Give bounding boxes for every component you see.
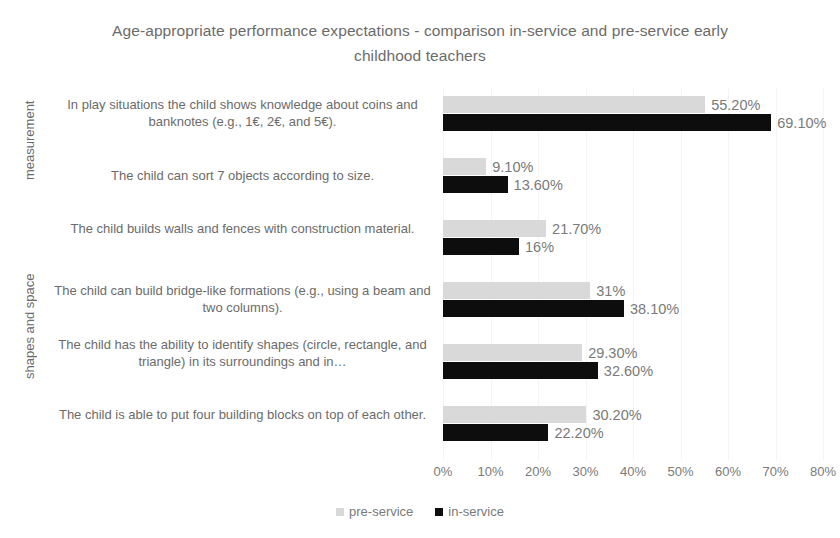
x-tick-label: 0% <box>434 464 453 479</box>
x-tick-label: 10% <box>477 464 503 479</box>
category-label: The child can build bridge-like formatio… <box>50 282 435 316</box>
bar-in-service[interactable]: 69.10% <box>443 114 771 131</box>
bar-chart: Age-appropriate performance expectations… <box>0 0 840 538</box>
bar-in-service[interactable]: 32.60% <box>443 362 598 379</box>
bar-value-label: 22.20% <box>554 425 603 441</box>
bar-value-label: 16% <box>525 239 554 255</box>
bar-group: 9.10%13.60% <box>443 158 823 196</box>
bar-pre-service[interactable]: 31% <box>443 282 590 299</box>
bar-pre-service[interactable]: 29.30% <box>443 344 582 361</box>
legend-label: in-service <box>448 504 504 519</box>
gridline <box>443 88 444 460</box>
x-tick-label: 80% <box>810 464 836 479</box>
bar-group: 30.20%22.20% <box>443 406 823 444</box>
bar-value-label: 69.10% <box>777 115 826 131</box>
legend-label: pre-service <box>349 504 413 519</box>
bar-value-label: 13.60% <box>514 177 563 193</box>
bar-pre-service[interactable]: 9.10% <box>443 158 486 175</box>
bar-value-label: 38.10% <box>630 301 679 317</box>
gridline <box>823 88 824 460</box>
x-tick-label: 40% <box>620 464 646 479</box>
bar-value-label: 32.60% <box>604 363 653 379</box>
category-label: The child has the ability to identify sh… <box>50 336 435 370</box>
chart-legend: pre-servicein-service <box>0 504 840 519</box>
gridline <box>681 88 682 460</box>
bar-value-label: 31% <box>596 283 625 299</box>
gridline <box>633 88 634 460</box>
category-label: The child builds walls and fences with c… <box>50 220 435 237</box>
x-tick-label: 50% <box>667 464 693 479</box>
legend-item-in-service[interactable]: in-service <box>435 504 504 519</box>
bar-in-service[interactable]: 13.60% <box>443 176 508 193</box>
chart-title: Age-appropriate performance expectations… <box>90 18 750 68</box>
category-label: The child can sort 7 objects according t… <box>50 167 435 184</box>
gridline <box>538 88 539 460</box>
x-axis-tick-labels: 0%10%20%30%40%50%60%70%80% <box>443 464 823 484</box>
bar-pre-service[interactable]: 55.20% <box>443 96 705 113</box>
gridline <box>776 88 777 460</box>
bar-value-label: 29.30% <box>588 345 637 361</box>
axis-group-label-shapes-and-space: shapes and space <box>22 212 37 441</box>
gridline <box>491 88 492 460</box>
bar-group: 29.30%32.60% <box>443 344 823 382</box>
category-label: The child is able to put four building b… <box>50 406 435 423</box>
legend-swatch-icon <box>435 508 443 516</box>
bar-pre-service[interactable]: 30.20% <box>443 406 586 423</box>
bar-in-service[interactable]: 22.20% <box>443 424 548 441</box>
x-tick-label: 20% <box>525 464 551 479</box>
x-tick-label: 60% <box>715 464 741 479</box>
bar-group: 55.20%69.10% <box>443 96 823 134</box>
x-tick-label: 30% <box>572 464 598 479</box>
legend-item-pre-service[interactable]: pre-service <box>336 504 413 519</box>
bar-in-service[interactable]: 16% <box>443 238 519 255</box>
bar-in-service[interactable]: 38.10% <box>443 300 624 317</box>
category-label: In play situations the child shows knowl… <box>50 96 435 130</box>
bar-value-label: 30.20% <box>592 407 641 423</box>
plot-area: 55.20%69.10%9.10%13.60%21.70%16%31%38.10… <box>443 88 823 460</box>
bar-value-label: 9.10% <box>492 159 533 175</box>
bar-pre-service[interactable]: 21.70% <box>443 220 546 237</box>
gridline <box>728 88 729 460</box>
bar-group: 21.70%16% <box>443 220 823 258</box>
axis-group-label-measurement: measurement <box>22 88 37 193</box>
legend-swatch-icon <box>336 508 344 516</box>
gridline <box>586 88 587 460</box>
x-tick-label: 70% <box>762 464 788 479</box>
bar-value-label: 21.70% <box>552 221 601 237</box>
bar-group: 31%38.10% <box>443 282 823 320</box>
category-label-axis: In play situations the child shows knowl… <box>50 88 435 460</box>
bar-value-label: 55.20% <box>711 97 760 113</box>
